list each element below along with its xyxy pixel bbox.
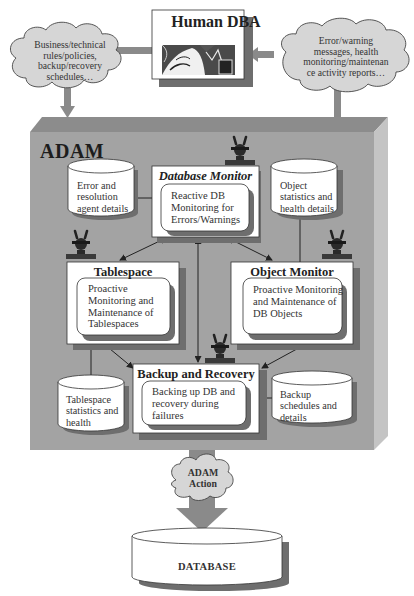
desc-line: DB Objects xyxy=(253,308,345,320)
desc-line: Reactive DB xyxy=(171,190,251,202)
desc-line: Tablespaces xyxy=(88,318,170,330)
tablespace-title: Tablespace xyxy=(67,265,179,279)
desc-line: failures xyxy=(152,410,244,422)
database-monitor-title: Database Monitor xyxy=(152,169,259,183)
desc-line: Proactive Monitoring xyxy=(253,284,345,296)
object-monitor-desc: Proactive Monitoring and Maintenance of … xyxy=(253,284,345,319)
store-line: details xyxy=(280,412,350,423)
store-line: Object xyxy=(280,180,340,191)
store-line: health details xyxy=(280,203,340,214)
store-line: statistics and xyxy=(66,405,126,416)
adam-architecture-diagram: Human DBA Business/technical rules/polic… xyxy=(0,0,414,596)
store-line: Error and xyxy=(77,180,137,191)
tablespace-desc: Proactive Monitoring and Maintenance of … xyxy=(88,283,170,330)
object-stats-label: Object statistics and health details xyxy=(280,180,340,214)
store-line: resolution xyxy=(77,191,137,202)
cloud-line: ce activity reports… xyxy=(290,68,402,79)
store-line: Tablespace xyxy=(66,394,126,405)
desc-line: Backing up DB and xyxy=(152,386,244,398)
adam-title: ADAM xyxy=(40,140,104,162)
desc-line: Maintenance of xyxy=(88,307,170,319)
backup-recovery-title: Backup and Recovery xyxy=(133,367,259,381)
right-cloud-text: Error/warning messages, health monitorin… xyxy=(290,36,402,79)
adam-to-reports-connector xyxy=(334,88,341,120)
desc-line: Errors/Warnings xyxy=(171,214,251,226)
desc-line: Proactive xyxy=(88,283,170,295)
desc-line: and Maintenance of xyxy=(253,296,345,308)
backup-schedules-label: Backup schedules and details xyxy=(280,389,350,423)
store-line: Backup xyxy=(280,389,350,400)
dba-portrait-image xyxy=(162,45,235,75)
backup-recovery-desc: Backing up DB and recovery during failur… xyxy=(152,386,244,421)
action-cloud-text: ADAM Action xyxy=(180,468,226,490)
human-dba-title: Human DBA xyxy=(158,13,274,31)
tablespace-stats-label: Tablespace statistics and health xyxy=(66,394,126,428)
desc-line: Monitoring and xyxy=(88,295,170,307)
database-label: DATABASE xyxy=(132,561,282,573)
error-store-label: Error and resolution agent details xyxy=(77,180,137,214)
database-cylinder xyxy=(132,528,289,591)
policies-to-adam-arrow xyxy=(60,88,75,118)
desc-line: recovery during xyxy=(152,398,244,410)
object-monitor-title: Object Monitor xyxy=(231,265,353,279)
desc-line: Monitoring for xyxy=(171,202,251,214)
store-line: health xyxy=(66,417,126,428)
store-line: schedules and xyxy=(280,400,350,411)
cloud-line: Action xyxy=(180,479,226,490)
store-line: statistics and xyxy=(280,191,340,202)
cloud-line: schedules… xyxy=(22,72,118,83)
database-monitor-desc: Reactive DB Monitoring for Errors/Warnin… xyxy=(171,190,251,225)
left-cloud-text: Business/technical rules/policies, backu… xyxy=(22,40,118,83)
store-line: agent details xyxy=(77,203,137,214)
